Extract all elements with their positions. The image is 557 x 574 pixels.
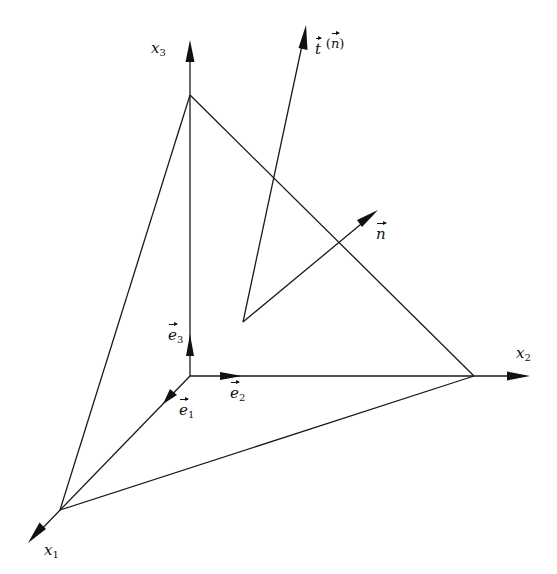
label-x3: x3 <box>151 41 166 58</box>
edge-x3-x2 <box>190 95 474 376</box>
label-e1-sub: 1 <box>188 409 194 420</box>
label-x2: x2 <box>516 346 531 363</box>
label-e2: e2 <box>230 386 245 403</box>
label-e1: e1 <box>179 403 194 420</box>
label-traction-n: n <box>331 37 339 50</box>
label-x1-sub: 1 <box>52 549 58 560</box>
label-e1-base: e <box>179 403 188 418</box>
label-e3-sub: 3 <box>177 334 183 345</box>
e3-arrowhead-icon <box>186 334 194 356</box>
close-paren: ) <box>339 36 344 51</box>
label-n: n <box>376 227 386 242</box>
label-normal: n <box>376 227 386 242</box>
x2-arrowhead-icon <box>507 372 530 381</box>
x1-arrowhead-icon <box>28 523 46 544</box>
label-x3-sub: 3 <box>159 47 165 58</box>
label-t: t <box>315 42 321 57</box>
label-x2-sub: 2 <box>524 352 530 363</box>
edge-x3-x1 <box>60 95 190 510</box>
label-e3: e3 <box>168 328 183 345</box>
label-e2-base: e <box>230 386 239 401</box>
label-e2-sub: 2 <box>239 392 245 403</box>
label-x1: x1 <box>44 543 59 560</box>
x3-arrowhead-icon <box>186 40 195 62</box>
tetrahedron-diagram <box>0 0 557 574</box>
label-e3-base: e <box>168 328 177 343</box>
edge-x1-x2 <box>60 376 474 510</box>
label-traction: t (n) <box>315 42 344 57</box>
traction-arrowhead-icon <box>299 25 308 50</box>
e2-arrowhead-icon <box>220 372 242 380</box>
label-traction-arg: (n) <box>326 36 345 51</box>
